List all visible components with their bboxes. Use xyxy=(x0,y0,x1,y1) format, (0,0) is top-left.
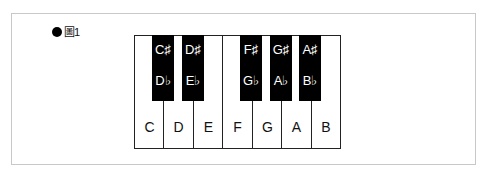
key-label: C xyxy=(135,119,164,135)
sharp-label: A♯ xyxy=(299,42,321,57)
piano-keyboard: C D E F G A B C♯ D♭ D♯ E♭ F♯ G♭ G♯ A♭ A♯… xyxy=(134,35,341,149)
figure-caption: 圖1 xyxy=(52,25,79,39)
sharp-label: C♯ xyxy=(152,42,174,57)
sharp-label: G♯ xyxy=(270,42,292,57)
black-key-g-sharp: G♯ A♭ xyxy=(270,35,292,101)
key-label: E xyxy=(194,119,223,135)
sharp-label: F♯ xyxy=(240,42,262,57)
flat-label: D♭ xyxy=(152,73,174,88)
key-label: G xyxy=(253,119,282,135)
bullet-icon xyxy=(52,27,62,37)
sharp-label: D♯ xyxy=(182,42,204,57)
figure-label: 圖1 xyxy=(64,25,79,39)
black-key-c-sharp: C♯ D♭ xyxy=(152,35,174,101)
flat-label: A♭ xyxy=(270,73,292,88)
black-key-d-sharp: D♯ E♭ xyxy=(182,35,204,101)
key-label: A xyxy=(282,119,311,135)
black-key-f-sharp: F♯ G♭ xyxy=(240,35,262,101)
flat-label: G♭ xyxy=(240,73,262,88)
key-label: F xyxy=(223,119,252,135)
key-label: B xyxy=(312,119,340,135)
black-key-a-sharp: A♯ B♭ xyxy=(299,35,321,101)
flat-label: E♭ xyxy=(182,73,204,88)
flat-label: B♭ xyxy=(299,73,321,88)
key-label: D xyxy=(164,119,193,135)
